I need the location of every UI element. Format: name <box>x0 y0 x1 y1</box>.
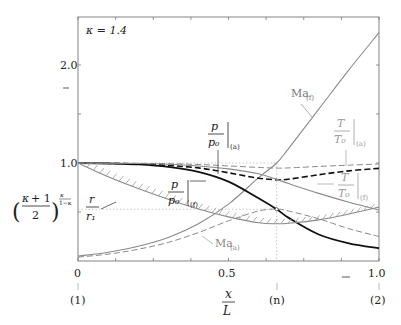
svg-text:1−κ: 1−κ <box>59 199 72 206</box>
labels: Ma(f)pp₀(a)TT₀(a)pp₀(f)TT₀(f)rr₁Ma(a) <box>86 87 368 252</box>
svg-text:r₁: r₁ <box>86 210 96 223</box>
station-2-label: (2) <box>370 294 386 307</box>
svg-text:p: p <box>211 120 218 133</box>
svg-text:(a): (a) <box>356 140 366 148</box>
svg-text:(f): (f) <box>190 201 198 209</box>
svg-text:T₀: T₀ <box>338 187 350 200</box>
kappa-annotation: κ = 1.4 <box>85 24 127 37</box>
x-tick-label-05: 0.5 <box>218 267 236 280</box>
svg-text:(f): (f) <box>306 94 314 102</box>
svg-text:(: ( <box>12 199 21 224</box>
critical-ratio-label: ( κ + 1 2 ) κ 1−κ <box>12 191 72 224</box>
station-n-label: (n) <box>269 294 285 307</box>
svg-text:(a): (a) <box>230 244 240 252</box>
x-tick-label-0: 0 <box>74 267 81 280</box>
nozzle-flow-chart: Ma(f)pp₀(a)TT₀(a)pp₀(f)TT₀(f)rr₁Ma(a) κ … <box>0 0 401 325</box>
curve-t-t0-f- <box>78 163 379 210</box>
svg-text:T: T <box>337 117 346 130</box>
svg-text:(f): (f) <box>360 194 368 202</box>
svg-text:p: p <box>171 178 178 191</box>
station-1-label: (1) <box>70 294 86 307</box>
svg-text:p₀: p₀ <box>208 136 220 149</box>
svg-text:κ: κ <box>21 192 30 205</box>
x-axis-label-den: L <box>222 304 231 318</box>
x-tick-label-1: 1.0 <box>368 267 386 280</box>
svg-text:T₀: T₀ <box>334 133 346 146</box>
y-tick-label-1: 1.0 <box>60 157 78 170</box>
svg-text:r: r <box>89 193 95 206</box>
curve-p-p0-f- <box>78 163 379 248</box>
svg-text:+ 1: + 1 <box>31 192 51 205</box>
x-axis-label-num: x <box>225 287 232 301</box>
y-tick-label-2: 2.0 <box>60 59 78 72</box>
svg-text:T: T <box>341 171 350 184</box>
svg-text:p₀: p₀ <box>168 194 180 207</box>
svg-text:(a): (a) <box>230 143 240 151</box>
svg-text:2: 2 <box>32 209 39 222</box>
svg-text:κ: κ <box>59 191 64 198</box>
